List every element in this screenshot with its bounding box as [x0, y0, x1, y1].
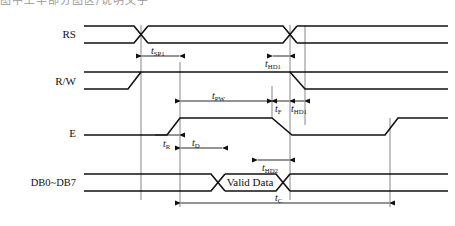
dimension-tr: tR [155, 135, 179, 150]
timing-diagram-figure: 图中上半部分图区/说明文字 RS [0, 0, 455, 226]
timing-label-tf: tF [275, 103, 282, 115]
timing-label-tc: tC [275, 192, 283, 204]
signal-label-rs: RS [63, 28, 76, 40]
dimension-tf: tF [273, 101, 289, 115]
signal-label-db: DB0~DB7 [31, 177, 76, 188]
dimension-thd1-rw: tHD1 [291, 101, 307, 115]
timing-diagram-canvas: RS tSP1 tHD1 R/W [0, 0, 455, 226]
dimension-thd2: tHD2 [258, 160, 289, 174]
signal-label-rw: R/W [55, 75, 76, 87]
waveform-rs [84, 26, 448, 43]
timing-label-tr: tR [163, 138, 171, 150]
timing-label-tsp1: tSP1 [151, 45, 165, 57]
valid-data-label: Valid Data [227, 176, 274, 188]
timing-label-thd1-rs: tHD1 [265, 58, 281, 70]
waveform-rw [84, 72, 448, 89]
timing-label-thd2: tHD2 [262, 162, 279, 174]
waveform-e [84, 118, 448, 135]
dimension-td: tD [181, 137, 222, 149]
timing-label-thd1-rw: tHD1 [291, 103, 307, 115]
timing-label-td: tD [192, 137, 200, 149]
dimension-tc: tC [181, 192, 389, 204]
timing-label-tpw: tPW [212, 90, 226, 102]
dimension-tsp1: tSP1 [142, 45, 179, 57]
signal-label-e: E [69, 127, 76, 139]
dimension-tpw: tPW [181, 90, 271, 102]
dimension-thd1-rs: tHD1 [265, 56, 289, 70]
